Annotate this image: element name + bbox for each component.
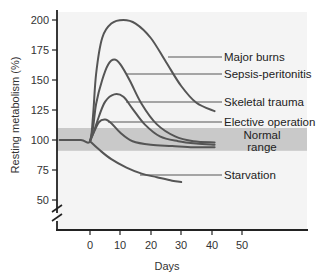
y-axis-title: Resting metabolism (%) [9,57,21,174]
y-tick-75: 75 [37,164,49,176]
label-skeletal-trauma: Skeletal trauma [224,96,305,108]
x-tick-40: 40 [206,239,218,251]
x-axis-title: Days [154,260,180,272]
x-tick-50: 50 [236,239,248,251]
x-tick-30: 30 [175,239,187,251]
y-tick-labels: 200 175 150 125 100 75 50 [31,14,49,206]
label-normal: Normal [243,129,280,141]
label-starvation: Starvation [224,169,276,181]
x-tick-10: 10 [114,239,126,251]
x-tick-labels: 0 10 20 30 40 50 [87,239,248,251]
label-elective-operation: Elective operation [224,116,315,128]
y-tick-150: 150 [31,74,49,86]
y-tick-125: 125 [31,104,49,116]
y-tick-175: 175 [31,44,49,56]
x-tick-20: 20 [145,239,157,251]
y-tick-50: 50 [37,194,49,206]
label-range: range [247,141,276,153]
y-tick-200: 200 [31,14,49,26]
label-major-burns: Major burns [224,51,285,63]
label-sepsis-peritonitis: Sepsis-peritonitis [224,68,312,80]
y-tick-100: 100 [31,134,49,146]
x-tick-0: 0 [87,239,93,251]
metabolism-chart: 200 175 150 125 100 75 50 0 10 20 30 40 … [0,0,316,275]
